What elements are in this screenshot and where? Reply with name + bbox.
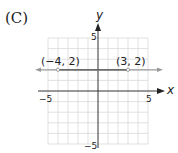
left-arrow-icon xyxy=(35,68,41,73)
point-label-neg4-2: (−4, 2) xyxy=(41,55,80,68)
right-arrow-icon xyxy=(157,68,163,73)
x-axis-arrow-icon xyxy=(157,88,165,94)
x-tick-min: −5 xyxy=(39,94,52,104)
coordinate-plane xyxy=(0,0,178,153)
point-label-3-2: (3, 2) xyxy=(116,55,146,68)
x-tick-max: 5 xyxy=(146,94,152,104)
y-axis-label: y xyxy=(96,8,103,22)
point-neg4-2 xyxy=(56,68,59,71)
y-tick-max: 5 xyxy=(91,32,97,42)
x-axis-label: x xyxy=(167,83,174,97)
y-axis-arrow-icon xyxy=(95,23,101,31)
y-tick-min: −5 xyxy=(84,141,97,151)
point-3-2 xyxy=(126,68,129,71)
